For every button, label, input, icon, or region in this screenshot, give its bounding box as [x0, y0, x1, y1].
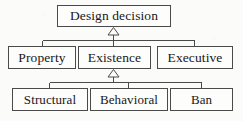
node-label: Structural [24, 92, 76, 108]
node-ban[interactable]: Ban [170, 88, 233, 111]
node-executive[interactable]: Executive [157, 46, 233, 69]
node-label: Ban [191, 92, 212, 108]
diagram-canvas: Design decision Property Existence Execu… [0, 0, 243, 121]
node-behavioral[interactable]: Behavioral [90, 88, 168, 111]
node-property[interactable]: Property [8, 46, 76, 69]
node-label: Behavioral [100, 92, 158, 108]
node-existence[interactable]: Existence [78, 46, 151, 69]
node-label: Existence [88, 50, 141, 66]
node-label: Design decision [70, 8, 158, 24]
node-design-decision[interactable]: Design decision [57, 5, 171, 27]
node-structural[interactable]: Structural [12, 88, 88, 111]
node-label: Property [18, 50, 65, 66]
hollow-triangle-arrowhead-icon [108, 28, 119, 36]
node-label: Executive [168, 50, 223, 66]
hollow-triangle-arrowhead-icon [108, 70, 119, 78]
